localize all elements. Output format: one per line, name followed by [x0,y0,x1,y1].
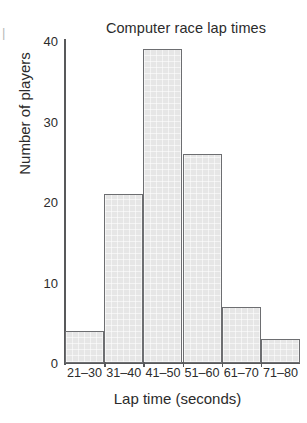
histogram-figure: | Computer race lap times 0 10 20 30 40 … [0,0,307,423]
bar-21-30 [65,331,104,363]
y-tick-label-30: 30 [28,114,64,129]
x-tick-label-21-30: 21–30 [64,366,105,380]
x-tick-label-71-80: 71–80 [260,366,301,380]
chart-title: Computer race lap times [70,20,302,36]
bar-71-80 [261,339,300,363]
x-tick-label-61-70: 61–70 [221,366,262,380]
x-axis-ticks: 21–30 31–40 41–50 51–60 61–70 71–80 [65,366,300,386]
x-tick-label-31-40: 31–40 [103,366,144,380]
bar-41-50 [143,49,182,363]
page-edge-mark: | [2,27,6,39]
y-tick-label-10: 10 [28,275,64,290]
y-tick-label-20: 20 [28,195,64,210]
y-tick-label-0: 0 [28,356,64,371]
y-tick-label-40: 40 [28,34,64,49]
bar-series [65,41,300,363]
y-axis-title: Number of players [16,24,33,204]
x-tick-label-51-60: 51–60 [182,366,223,380]
bar-51-60 [183,154,222,363]
x-axis-title: Lap time (seconds) [55,390,300,407]
x-tick-label-41-50: 41–50 [142,366,183,380]
bar-61-70 [222,307,261,363]
bar-31-40 [104,194,143,363]
